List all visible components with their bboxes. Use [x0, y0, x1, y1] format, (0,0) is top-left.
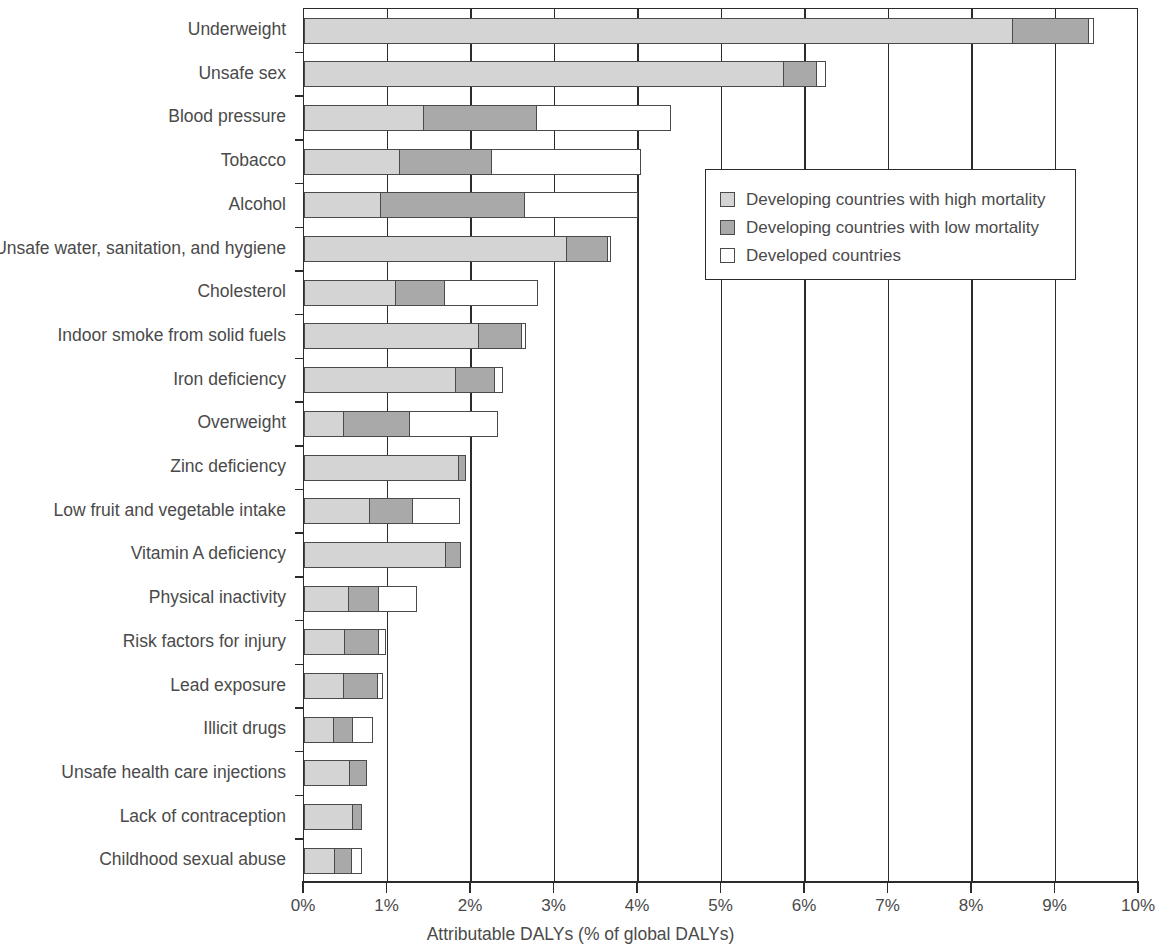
bar-segment-high[interactable] [304, 280, 397, 306]
stacked-bar[interactable] [304, 586, 417, 612]
y-axis-tick [295, 358, 303, 360]
bar-segment-dev[interactable] [409, 411, 498, 437]
bar-segment-low[interactable] [380, 192, 525, 218]
bar-segment-low[interactable] [1012, 18, 1089, 44]
bar-segment-high[interactable] [304, 192, 382, 218]
bar-segment-high[interactable] [304, 498, 370, 524]
y-axis-tick [295, 401, 303, 403]
bar-segment-high[interactable] [304, 542, 447, 568]
bar-segment-high[interactable] [304, 717, 334, 743]
bar-segment-dev[interactable] [351, 848, 362, 874]
y-axis-label: Illicit drugs [203, 707, 286, 751]
y-axis-tick [295, 751, 303, 753]
stacked-bar[interactable] [304, 717, 373, 743]
bar-segment-dev[interactable] [352, 717, 373, 743]
bar-segment-low[interactable] [458, 455, 466, 481]
bar-segment-dev[interactable] [378, 586, 417, 612]
bar-segment-high[interactable] [304, 455, 459, 481]
stacked-bar[interactable] [304, 105, 671, 131]
x-axis-tick-label: 4% [625, 896, 650, 916]
x-axis-tick [803, 881, 805, 893]
bar-segment-dev[interactable] [816, 61, 826, 87]
stacked-bar[interactable] [304, 323, 526, 349]
x-axis-tick [302, 881, 304, 893]
stacked-bar[interactable] [304, 760, 367, 786]
y-axis-tick [295, 620, 303, 622]
bar-row [304, 752, 1139, 796]
stacked-bar[interactable] [304, 455, 466, 481]
bar-segment-low[interactable] [343, 411, 410, 437]
bar-segment-high[interactable] [304, 411, 344, 437]
y-axis-label: Physical inactivity [149, 576, 286, 620]
bar-segment-high[interactable] [304, 323, 479, 349]
bar-segment-low[interactable] [399, 149, 492, 175]
bar-segment-high[interactable] [304, 18, 1014, 44]
bar-segment-high[interactable] [304, 848, 336, 874]
bar-segment-low[interactable] [343, 673, 379, 699]
y-axis-label: Unsafe sex [198, 52, 286, 96]
y-axis-label: Childhood sexual abuse [99, 838, 286, 882]
bar-segment-high[interactable] [304, 673, 344, 699]
bar-segment-low[interactable] [478, 323, 523, 349]
bar-segment-dev[interactable] [412, 498, 460, 524]
bar-segment-low[interactable] [455, 367, 496, 393]
bar-segment-dev[interactable] [378, 629, 386, 655]
stacked-bar[interactable] [304, 673, 383, 699]
bar-segment-high[interactable] [304, 586, 349, 612]
bar-segment-high[interactable] [304, 105, 424, 131]
bar-segment-high[interactable] [304, 149, 401, 175]
bar-segment-low[interactable] [352, 804, 362, 830]
bar-segment-high[interactable] [304, 760, 351, 786]
bar-segment-dev[interactable] [494, 367, 503, 393]
stacked-bar[interactable] [304, 542, 461, 568]
bar-segment-dev[interactable] [491, 149, 641, 175]
stacked-bar[interactable] [304, 367, 503, 393]
legend-item[interactable]: Developing countries with low mortality [720, 214, 1075, 241]
bar-segment-dev[interactable] [536, 105, 670, 131]
bar-segment-dev[interactable] [444, 280, 538, 306]
bar-segment-low[interactable] [333, 717, 354, 743]
stacked-bar[interactable] [304, 236, 611, 262]
legend-item-label: Developed countries [746, 246, 901, 266]
bar-segment-low[interactable] [395, 280, 445, 306]
y-axis-tick [295, 227, 303, 229]
bar-segment-low[interactable] [783, 61, 818, 87]
stacked-bar[interactable] [304, 18, 1094, 44]
bar-row [304, 9, 1139, 53]
bar-segment-low[interactable] [348, 586, 379, 612]
stacked-bar[interactable] [304, 629, 386, 655]
bar-segment-low[interactable] [344, 629, 379, 655]
stacked-bar[interactable] [304, 61, 826, 87]
bar-segment-low[interactable] [369, 498, 414, 524]
bar-segment-dev[interactable] [607, 236, 612, 262]
stacked-bar[interactable] [304, 848, 362, 874]
stacked-bar[interactable] [304, 192, 638, 218]
stacked-bar[interactable] [304, 280, 538, 306]
y-axis-tick [295, 139, 303, 141]
bar-row [304, 665, 1139, 709]
chart-page: UnderweightUnsafe sexBlood pressureTobac… [0, 0, 1161, 948]
bar-segment-dev[interactable] [524, 192, 638, 218]
bar-segment-high[interactable] [304, 61, 784, 87]
bar-segment-high[interactable] [304, 629, 346, 655]
y-axis-label: Unsafe health care injections [61, 751, 286, 795]
stacked-bar[interactable] [304, 804, 362, 830]
bar-segment-low[interactable] [566, 236, 608, 262]
bar-segment-low[interactable] [445, 542, 461, 568]
y-axis-label: Indoor smoke from solid fuels [57, 314, 286, 358]
stacked-bar[interactable] [304, 498, 460, 524]
bar-segment-high[interactable] [304, 236, 567, 262]
stacked-bar[interactable] [304, 149, 641, 175]
bar-segment-dev[interactable] [521, 323, 526, 349]
x-axis-tick-label: 1% [374, 896, 399, 916]
bar-segment-dev[interactable] [377, 673, 383, 699]
bar-segment-high[interactable] [304, 367, 456, 393]
stacked-bar[interactable] [304, 411, 498, 437]
bar-segment-low[interactable] [423, 105, 538, 131]
bar-segment-low[interactable] [334, 848, 352, 874]
bar-segment-high[interactable] [304, 804, 353, 830]
bar-segment-dev[interactable] [1088, 18, 1094, 44]
legend-item[interactable]: Developing countries with high mortality [720, 186, 1075, 213]
bar-segment-low[interactable] [349, 760, 367, 786]
legend-item[interactable]: Developed countries [720, 242, 1075, 269]
